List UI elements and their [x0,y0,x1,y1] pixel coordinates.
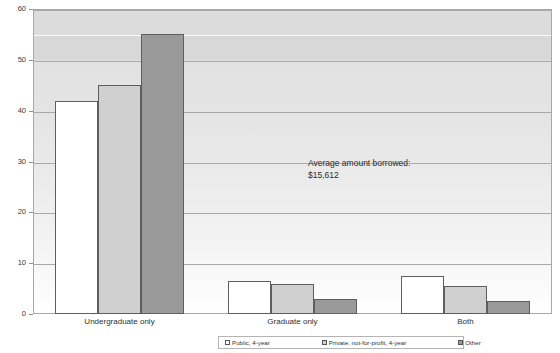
legend-swatch-other-icon [458,340,463,345]
annotation-average-borrowed: Average amount borrowed: $15,612 [308,158,410,181]
bar-chart: 0102030405060 Average amount borrowed: $… [0,0,560,353]
bars-layer [33,9,552,314]
bar-1-2 [314,299,357,314]
x-axis-category-labels: Undergraduate onlyGraduate onlyBoth [33,317,552,331]
y-tick-label-20: 20 [18,208,26,216]
legend-swatch-private-icon [322,340,327,345]
y-tick-mark-0 [29,314,33,315]
legend-label-other: Other [465,339,480,346]
x-category-label-1: Graduate only [267,317,317,327]
legend-label-private: Private, not-for-profit, 4-year [329,339,406,346]
bar-2-0 [401,276,444,314]
bar-1-1 [271,284,314,315]
bar-0-2 [141,34,184,314]
bar-2-2 [487,301,530,314]
x-category-label-0: Undergraduate only [84,317,154,327]
bar-0-1 [98,85,141,314]
bar-2-1 [444,286,487,314]
y-tick-label-60: 60 [18,5,26,13]
legend-item-other[interactable]: Other [458,339,480,346]
y-tick-label-0: 0 [22,310,26,318]
legend-item-private[interactable]: Private, not-for-profit, 4-year [322,339,406,346]
y-tick-label-40: 40 [18,107,26,115]
legend-label-public: Public, 4-year [232,339,270,346]
y-axis: 0102030405060 [0,0,33,314]
x-category-label-2: Both [457,317,473,327]
bar-0-0 [55,101,98,315]
legend-swatch-public-icon [225,340,230,345]
legend-item-public[interactable]: Public, 4-year [225,339,270,346]
y-tick-label-50: 50 [18,56,26,64]
legend: Public, 4-year Private, not-for-profit, … [218,336,464,349]
y-tick-label-30: 30 [18,158,26,166]
y-tick-label-10: 10 [18,259,26,267]
bar-1-0 [228,281,271,314]
